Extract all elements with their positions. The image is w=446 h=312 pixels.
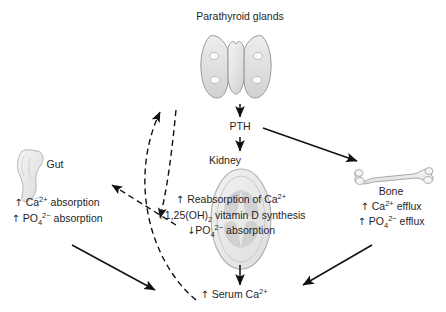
serum-text: Serum Ca bbox=[209, 288, 259, 300]
label-bone: Bone bbox=[357, 184, 424, 199]
kidney-effect-text: PO bbox=[195, 224, 210, 236]
gut-effect-row: ↑ Ca2+ absorption bbox=[11, 195, 102, 211]
kidney-effect-row: ↓PO42− absorption bbox=[156, 223, 305, 239]
gut-effects-block: ↑ Ca2+ absorption ↑ PO42− absorption bbox=[11, 195, 102, 226]
edge-pth-to-bone bbox=[263, 128, 357, 161]
bone-effects-block: Bone ↑ Ca2+ efflux ↑ PO42− efflux bbox=[357, 184, 424, 230]
label-gut: Gut bbox=[47, 158, 64, 171]
page-title: Parathyroid glands bbox=[196, 10, 284, 23]
bone-effect-text-tail: efflux bbox=[397, 215, 425, 227]
label-serum-calcium: ↑ Serum Ca2+ bbox=[200, 288, 267, 301]
kidney-effect-row: ↑1,25(OH)2 vitamin D synthesis bbox=[156, 208, 305, 224]
charge-superscript: 2+ bbox=[259, 287, 268, 296]
kidney-effect-text-tail: vitamin D synthesis bbox=[212, 209, 305, 221]
up-arrow-icon: ↑ bbox=[176, 194, 184, 205]
edge-gut-to-serum bbox=[72, 245, 155, 290]
down-arrow-icon: ↓ bbox=[187, 225, 195, 236]
thyroid-parathyroid-gland-icon bbox=[196, 28, 276, 104]
charge-superscript: 2− bbox=[42, 210, 51, 219]
charge-superscript: 2+ bbox=[385, 198, 394, 207]
gut-effect-text-tail: absorption bbox=[51, 212, 103, 224]
kidney-effect-text: 1,25(OH) bbox=[165, 209, 208, 221]
label-kidney: Kidney bbox=[209, 154, 241, 167]
gut-effect-row: ↑ PO42− absorption bbox=[11, 211, 102, 227]
charge-superscript: 2− bbox=[215, 223, 224, 232]
edge-bone-to-serum bbox=[303, 245, 372, 285]
charge-superscript: 2+ bbox=[278, 192, 287, 201]
gut-effect-text-tail: absorption bbox=[48, 196, 100, 208]
label-pth: PTH bbox=[230, 120, 251, 133]
bone-effect-row: ↑ Ca2+ efflux bbox=[357, 199, 424, 215]
bone-effect-text: Ca bbox=[369, 200, 385, 212]
charge-superscript: 2+ bbox=[39, 195, 48, 204]
kidney-effect-row: ↑ Reabsorption of Ca2+ bbox=[156, 192, 305, 208]
gut-effect-text: PO bbox=[20, 212, 38, 224]
gut-effect-text: Ca bbox=[23, 196, 39, 208]
kidney-effect-text-tail: absorption bbox=[223, 224, 275, 236]
bone-effect-text: PO bbox=[366, 215, 384, 227]
charge-superscript: 2− bbox=[388, 214, 397, 223]
bone-effect-text-tail: efflux bbox=[394, 200, 422, 212]
bone-effect-row: ↑ PO42− efflux bbox=[357, 214, 424, 230]
calcium-homeostasis-diagram: Parathyroid glands PTH Kidney Gut ↑ Ca2+… bbox=[0, 0, 446, 312]
kidney-effects-block: ↑ Reabsorption of Ca2+ ↑1,25(OH)2 vitami… bbox=[156, 192, 305, 239]
kidney-effect-text: Reabsorption of Ca bbox=[184, 193, 277, 205]
